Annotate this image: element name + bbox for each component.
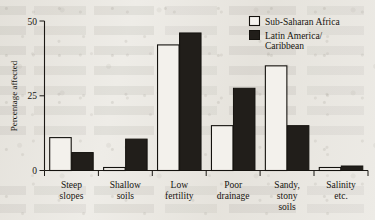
bar-open-1	[104, 168, 126, 171]
y-tick-label-0: 0	[32, 166, 37, 176]
bar-solid-2	[180, 33, 202, 171]
category-label-1: soils	[117, 191, 135, 201]
category-label-4: stony	[277, 191, 298, 201]
bar-series-group	[50, 33, 363, 171]
bar-chart-figure: 50 25 0 Percentage affected SteepslopesS…	[0, 0, 375, 220]
category-label-5: etc.	[334, 191, 347, 201]
y-tick-label-50: 50	[28, 17, 38, 27]
legend-label-latin-america-line2: Caribbean	[265, 41, 304, 51]
y-axis-title: Percentage affected	[9, 60, 19, 131]
category-label-4: soils	[278, 202, 296, 212]
category-label-3: Poor	[224, 180, 243, 190]
category-label-1: Shallow	[110, 180, 141, 190]
bar-open-3	[211, 126, 233, 171]
bar-solid-1	[126, 139, 147, 170]
open-square-icon	[250, 17, 260, 26]
y-axis: 50 25 0 Percentage affected	[9, 17, 45, 177]
bar-open-2	[158, 45, 180, 171]
legend-label-latin-america-line1: Latin America/	[265, 31, 323, 41]
bar-open-4	[265, 66, 287, 171]
category-label-2: Low	[171, 180, 189, 190]
x-axis	[45, 171, 369, 177]
filled-square-icon	[250, 31, 260, 40]
bar-solid-4	[287, 126, 309, 171]
bar-solid-0	[72, 153, 94, 171]
category-label-0: slopes	[60, 191, 84, 201]
category-label-0: Steep	[61, 180, 82, 190]
chart-legend: Sub-Saharan Africa Latin America/ Caribb…	[250, 17, 341, 52]
bar-solid-3	[233, 88, 255, 170]
y-tick-label-25: 25	[28, 91, 38, 101]
legend-label-sub-saharan-africa: Sub-Saharan Africa	[265, 17, 340, 27]
category-label-4: Sandy,	[274, 180, 300, 190]
bar-open-5	[319, 168, 341, 171]
category-label-2: fertility	[165, 191, 194, 201]
category-label-group: SteepslopesShallowsoilsLowfertilityPoord…	[60, 180, 356, 212]
category-label-5: Salinity	[326, 180, 356, 190]
bar-solid-5	[341, 166, 363, 170]
bar-open-0	[50, 138, 72, 171]
chart-svg: 50 25 0 Percentage affected SteepslopesS…	[0, 0, 375, 220]
category-label-3: drainage	[217, 191, 250, 201]
